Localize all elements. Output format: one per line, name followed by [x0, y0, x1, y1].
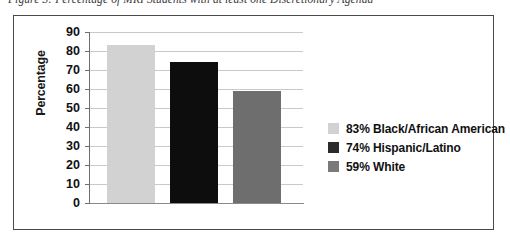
bar-chart: Percentage 0102030405060708090 83% Black… [14, 16, 495, 229]
legend-item: 59% White [328, 158, 505, 175]
y-tick-mark [85, 32, 90, 33]
y-tick-mark [85, 184, 90, 185]
y-tick-mark [85, 127, 90, 128]
legend-item: 83% Black/African American [328, 120, 505, 137]
gridline [90, 32, 303, 33]
chart-panel: Percentage 0102030405060708090 83% Black… [13, 15, 494, 230]
bar [233, 91, 281, 203]
legend-swatch [328, 161, 339, 172]
figure-caption-label: Figure 3: [8, 0, 52, 5]
legend-label: 59% White [346, 160, 405, 174]
y-axis-title: Percentage [34, 28, 48, 138]
y-tick-label: 90 [66, 25, 80, 39]
y-tick-label: 40 [66, 120, 80, 134]
figure-caption: Figure 3: Percentage of MRI Students wit… [0, 0, 510, 10]
y-tick-label: 0 [73, 196, 80, 210]
y-tick-label: 60 [66, 82, 80, 96]
y-tick-mark [85, 203, 90, 204]
y-tick-label: 30 [66, 139, 80, 153]
bar [170, 62, 218, 203]
y-tick-label: 50 [66, 101, 80, 115]
y-tick-label: 70 [66, 63, 80, 77]
legend-swatch [328, 142, 339, 153]
legend-label: 83% Black/African American [346, 122, 505, 136]
y-tick-mark [85, 51, 90, 52]
y-tick-label: 10 [66, 177, 80, 191]
legend-swatch [328, 123, 339, 134]
bar [107, 45, 155, 203]
y-tick-label: 80 [66, 44, 80, 58]
figure-caption-title: Percentage of MRI Students with at least… [55, 0, 373, 5]
plot-area: 0102030405060708090 [90, 32, 303, 203]
y-axis-line [89, 32, 90, 204]
y-tick-mark [85, 108, 90, 109]
y-tick-label: 20 [66, 158, 80, 172]
figure-caption-text: Figure 3: Percentage of MRI Students wit… [8, 0, 373, 5]
y-tick-mark [85, 165, 90, 166]
legend-item: 74% Hispanic/Latino [328, 139, 505, 156]
y-tick-mark [85, 70, 90, 71]
y-tick-mark [85, 89, 90, 90]
x-axis-line [85, 203, 304, 204]
y-tick-mark [85, 146, 90, 147]
chart-legend: 83% Black/African American74% Hispanic/L… [328, 120, 505, 177]
legend-label: 74% Hispanic/Latino [346, 141, 461, 155]
